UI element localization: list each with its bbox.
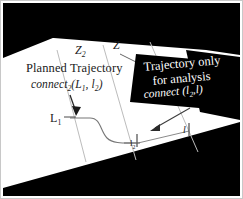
label-zone-2-text: Z bbox=[75, 43, 82, 57]
label-tick-l2-sub: 2 bbox=[133, 144, 136, 150]
label-zone-2-sub: 2 bbox=[82, 50, 86, 59]
label-planned-trajectory: Planned Trajectory bbox=[26, 62, 123, 75]
label-tick-l2: l2 bbox=[130, 139, 136, 151]
connect2-args: (L bbox=[71, 78, 81, 90]
callout-connect-tail: ,l) bbox=[192, 83, 203, 96]
figure-container: Z2 Z Planned Trajectory connect2(L1, l2)… bbox=[0, 0, 243, 199]
label-zone-2: Z2 bbox=[75, 44, 86, 59]
figure-svg bbox=[0, 0, 243, 199]
connect2-prefix: connect bbox=[31, 78, 67, 90]
label-connect2-formula: connect2(L1, l2) bbox=[31, 79, 103, 93]
callout-connect-prefix: connect bbox=[143, 85, 180, 100]
label-zone: Z bbox=[113, 39, 120, 51]
connect2-close: ) bbox=[99, 78, 103, 90]
label-lane-L1-sub: 1 bbox=[57, 118, 61, 127]
label-lane-L1: L1 bbox=[50, 112, 61, 127]
label-tick-l: l bbox=[183, 125, 186, 135]
connect2-args-tail: , l bbox=[86, 78, 95, 90]
